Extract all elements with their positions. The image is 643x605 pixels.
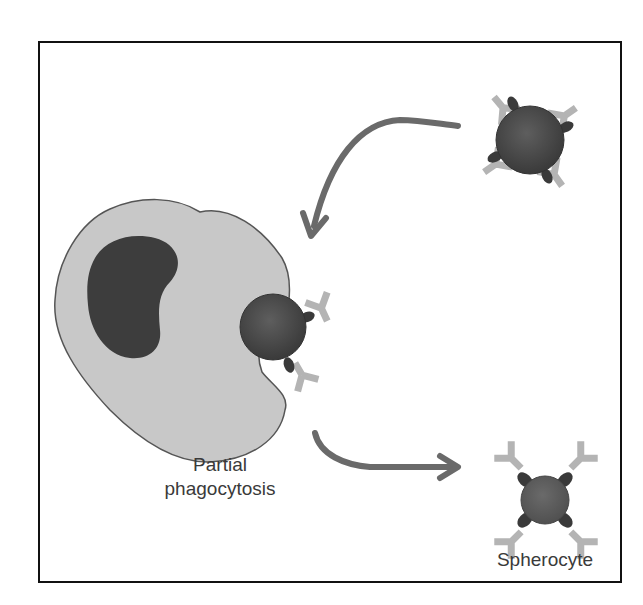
label-line-2: phagocytosis: [130, 477, 310, 501]
red-cell: [496, 106, 564, 174]
arrow-to-spherocyte: [315, 433, 458, 478]
antibody-icon: [494, 441, 529, 476]
spherocyte-label: Spherocyte: [480, 548, 610, 572]
red-cell: [240, 294, 306, 360]
diagram-canvas: [0, 0, 643, 605]
partial-phagocytosis-label: Partial phagocytosis: [130, 453, 310, 501]
spherocyte-cell: [521, 476, 569, 524]
spherocyte: [494, 441, 597, 558]
label-line-1: Partial: [130, 453, 310, 477]
antibody-icon: [562, 441, 597, 476]
antibody-coated-cell: [477, 89, 583, 192]
arrow-to-macrophage: [303, 120, 458, 236]
